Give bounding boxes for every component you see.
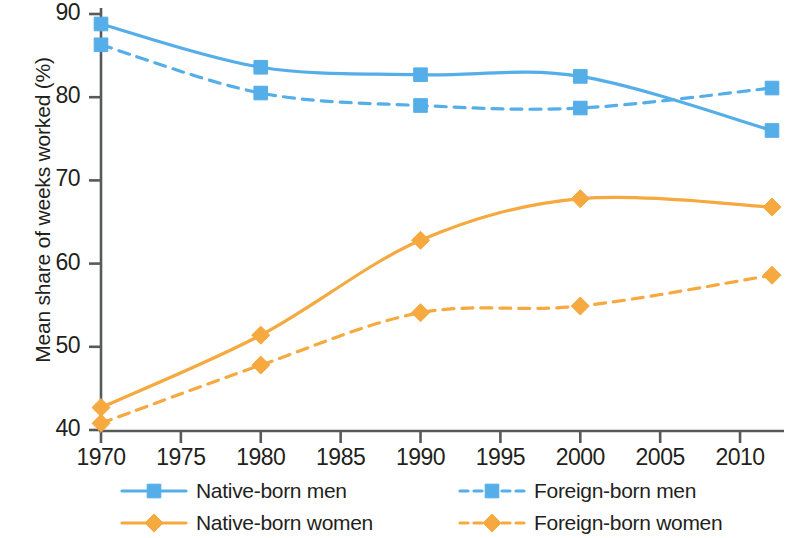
data-point-marker: [412, 231, 430, 249]
y-tick-label: 50: [28, 332, 80, 359]
legend-item[interactable]: Foreign-born men: [458, 476, 696, 506]
legend-marker: [145, 514, 163, 532]
series-line: [101, 197, 772, 407]
x-tick-label: 1990: [376, 444, 466, 471]
data-point-marker: [414, 99, 428, 113]
data-point-marker: [571, 190, 589, 208]
y-axis-ticks: [89, 14, 101, 430]
series-markers: [92, 17, 781, 432]
y-tick-label: 60: [28, 249, 80, 276]
legend-item[interactable]: Native-born men: [120, 476, 347, 506]
data-point-marker: [412, 304, 430, 322]
x-axis-ticks: [101, 431, 740, 443]
legend-swatch: [458, 478, 526, 504]
x-tick-label: 1985: [296, 444, 386, 471]
data-point-marker: [94, 17, 108, 31]
legend-swatch: [120, 510, 188, 536]
legend-label: Foreign-born men: [534, 479, 696, 503]
data-point-marker: [254, 86, 268, 100]
legend-marker: [485, 484, 499, 498]
data-point-marker: [94, 38, 108, 52]
data-point-marker: [254, 60, 268, 74]
data-point-marker: [765, 81, 779, 95]
data-point-marker: [252, 326, 270, 344]
legend-item[interactable]: Native-born women: [120, 508, 373, 538]
legend-marker: [147, 484, 161, 498]
y-tick-label: 40: [28, 415, 80, 442]
x-tick-label: 1970: [56, 444, 146, 471]
legend-label: Native-born women: [196, 511, 373, 535]
data-point-marker: [763, 266, 781, 284]
x-tick-label: 1975: [136, 444, 226, 471]
chart-figure: Mean share of weeks worked (%) 405060708…: [0, 0, 788, 538]
data-point-marker: [414, 68, 428, 82]
diamond-marker-icon: [120, 510, 188, 536]
x-tick-label: 2000: [535, 444, 625, 471]
legend-swatch: [458, 510, 526, 536]
data-point-marker: [763, 198, 781, 216]
legend-label: Native-born men: [196, 479, 347, 503]
data-point-marker: [571, 297, 589, 315]
x-tick-label: 1995: [455, 444, 545, 471]
data-point-marker: [573, 101, 587, 115]
data-point-marker: [252, 356, 270, 374]
y-tick-label: 80: [28, 82, 80, 109]
x-tick-label: 1980: [216, 444, 306, 471]
series-line: [101, 275, 772, 423]
x-tick-label: 2005: [615, 444, 705, 471]
diamond-marker-icon: [458, 510, 526, 536]
y-tick-label: 70: [28, 165, 80, 192]
legend-swatch: [120, 478, 188, 504]
legend-item[interactable]: Foreign-born women: [458, 508, 722, 538]
legend-label: Foreign-born women: [534, 511, 722, 535]
data-point-marker: [573, 70, 587, 84]
square-marker-icon: [458, 478, 526, 504]
legend-marker: [483, 514, 501, 532]
y-tick-label: 90: [28, 0, 80, 26]
x-tick-label: 2010: [695, 444, 785, 471]
series-lines: [101, 24, 772, 423]
chart-legend: Native-born menForeign-born menNative-bo…: [120, 476, 760, 536]
square-marker-icon: [120, 478, 188, 504]
data-point-marker: [765, 124, 779, 138]
